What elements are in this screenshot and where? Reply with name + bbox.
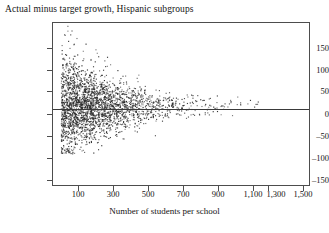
x-tick-label: 700 [163, 190, 203, 199]
x-tick-label: 100 [58, 190, 98, 199]
x-tick-label: 1,500 [283, 190, 323, 199]
x-axis-label: Number of students per school [0, 206, 329, 216]
x-tick-label: 500 [128, 190, 168, 199]
x-tick-label: 900 [198, 190, 238, 199]
scatter-plot-figure: Actual minus target growth, Hispanic sub… [0, 0, 329, 233]
x-axis: 100 300 500 700 900 1,100 1,300 1,500 [0, 0, 329, 233]
x-tick-label: 300 [93, 190, 133, 199]
